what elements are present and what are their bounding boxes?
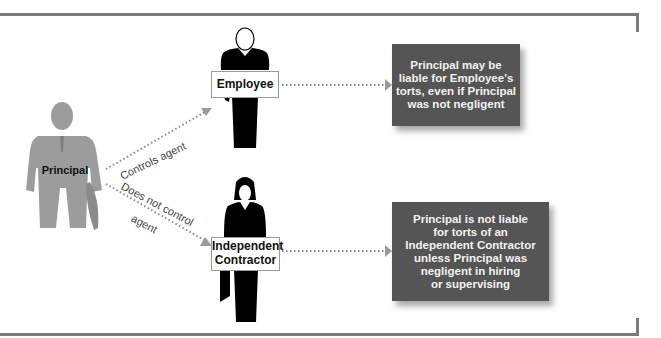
arrow-employee-to-result: [282, 79, 392, 91]
contractor-liability-box: Principal is not liable for torts of an …: [392, 202, 549, 301]
employee-label: Employee: [211, 71, 279, 98]
arrow-contractor-to-result: [282, 245, 392, 257]
contractor-liability-text: Principal is not liable for torts of an …: [405, 213, 535, 291]
diagram-art: [0, 0, 661, 338]
principal-label: Principal: [40, 164, 90, 176]
independent-contractor-label-line1: Independent: [212, 239, 279, 253]
employee-liability-text: Principal may be liable for Employee's t…: [396, 59, 516, 111]
arrow-does-not-control-agent: [106, 184, 212, 246]
independent-contractor-label: Independent Contractor: [211, 237, 280, 271]
employee-liability-box: Principal may be liable for Employee's t…: [392, 44, 520, 126]
independent-contractor-label-line2: Contractor: [212, 253, 279, 267]
